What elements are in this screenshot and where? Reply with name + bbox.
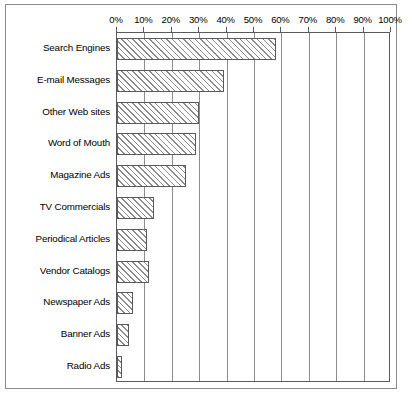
gridline [281,33,282,381]
bar [117,292,133,314]
bar [117,261,149,283]
bar [117,356,122,378]
x-tick-label: 20% [162,14,180,25]
bar [117,165,186,187]
gridline [227,33,228,381]
x-tick-label: 80% [326,14,344,25]
category-label: Radio Ads [0,360,110,371]
x-tick-label: 50% [244,14,262,25]
x-tick-label: 40% [216,14,234,25]
gridline [364,33,365,381]
plot-area [116,32,390,382]
x-tick-label: 0% [109,14,122,25]
bar [117,197,154,219]
bar [117,324,129,346]
bar [117,70,224,92]
bar [117,102,199,124]
category-label: Word of Mouth [0,137,110,148]
x-tick-label: 90% [353,14,371,25]
chart-figure: 0%10%20%30%40%50%60%70%80%90%100% Search… [0,0,412,404]
bar [117,38,276,60]
gridline [309,33,310,381]
x-tick-label: 100% [378,14,402,25]
x-tick-label: 70% [299,14,317,25]
category-label: Magazine Ads [0,169,110,180]
x-tick-mark [390,27,391,32]
x-tick-label: 60% [271,14,289,25]
category-label: Search Engines [0,42,110,53]
gridline [336,33,337,381]
category-label: Newspaper Ads [0,296,110,307]
x-tick-label: 30% [189,14,207,25]
category-label: Periodical Articles [0,233,110,244]
category-label: TV Commercials [0,201,110,212]
category-label: E-mail Messages [0,74,110,85]
category-label: Other Web sites [0,106,110,117]
category-label: Vendor Catalogs [0,265,110,276]
category-label: Banner Ads [0,328,110,339]
bar [117,229,147,251]
horizontal-bar-chart: 0%10%20%30%40%50%60%70%80%90%100% Search… [0,0,412,404]
x-tick-label: 10% [134,14,152,25]
bar [117,133,196,155]
gridline [254,33,255,381]
